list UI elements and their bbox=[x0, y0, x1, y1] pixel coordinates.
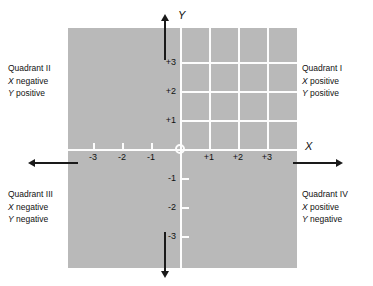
tick-label-x-minus-3: -3 bbox=[84, 152, 102, 162]
x-negative-direction-arrow bbox=[28, 159, 78, 167]
gridline-x-plus-2 bbox=[238, 28, 240, 149]
tick-x-minus-2 bbox=[122, 143, 124, 150]
tick-label-y-minus-1: -1 bbox=[158, 173, 176, 183]
tick-y-minus-1 bbox=[182, 178, 189, 180]
quadrant-1-x-word: positive bbox=[310, 76, 339, 86]
quadrant-1-title: Quadrant I bbox=[302, 62, 342, 75]
quadrant-4-x-variable: X bbox=[302, 202, 308, 212]
gridline-y-plus-2 bbox=[180, 91, 297, 93]
quadrant-3-x-variable: X bbox=[8, 202, 14, 212]
quadrant-2-note: Quadrant II X negative Y positive bbox=[8, 62, 51, 100]
tick-x-minus-3 bbox=[93, 143, 95, 150]
quadrant-4-x-sign: X positive bbox=[302, 201, 348, 214]
y-positive-direction-arrow bbox=[161, 14, 169, 60]
quadrant-4-note: Quadrant IV X positive Y negative bbox=[302, 188, 348, 226]
quadrant-4-y-sign: Y negative bbox=[302, 213, 348, 226]
tick-y-minus-2 bbox=[182, 207, 189, 209]
gridline-y-plus-3 bbox=[180, 62, 297, 64]
tick-label-x-plus-3: +3 bbox=[258, 152, 276, 162]
quadrant-2-x-sign: X negative bbox=[8, 75, 51, 88]
quadrant-4-y-word: negative bbox=[310, 214, 342, 224]
quadrant-3-y-variable: Y bbox=[8, 214, 14, 224]
quadrant-2-x-variable: X bbox=[8, 76, 14, 86]
quadrant-2-x-word: negative bbox=[16, 76, 48, 86]
tick-label-y-minus-2: -2 bbox=[158, 202, 176, 212]
gridline-y-plus-1 bbox=[180, 120, 297, 122]
tick-label-x-plus-1: +1 bbox=[200, 152, 218, 162]
quadrant-1-note: Quadrant I X positive Y positive bbox=[302, 62, 342, 100]
x-axis-label: X bbox=[305, 140, 312, 152]
quadrant-2-y-variable: Y bbox=[8, 88, 14, 98]
origin-marker bbox=[175, 144, 185, 154]
quadrant-3-y-word: negative bbox=[16, 214, 48, 224]
tick-x-minus-1 bbox=[151, 143, 153, 150]
plot-panel bbox=[68, 28, 297, 268]
tick-label-x-plus-2: +2 bbox=[229, 152, 247, 162]
quadrant-2-title: Quadrant II bbox=[8, 62, 51, 75]
gridline-x-plus-1 bbox=[209, 28, 211, 149]
y-negative-direction-arrow bbox=[161, 232, 169, 278]
quadrant-1-y-word: positive bbox=[310, 88, 339, 98]
quadrant-4-x-word: positive bbox=[310, 202, 339, 212]
quadrant-3-x-sign: X negative bbox=[8, 201, 53, 214]
quadrant-4-y-variable: Y bbox=[302, 214, 308, 224]
coordinate-plane-figure: +3 +2 +1 -1 -2 -3 -3 -2 -1 +1 +2 +3 X Y … bbox=[0, 0, 373, 286]
quadrant-3-x-word: negative bbox=[16, 202, 48, 212]
tick-y-minus-3 bbox=[182, 236, 189, 238]
quadrant-3-note: Quadrant III X negative Y negative bbox=[8, 188, 53, 226]
tick-label-x-minus-2: -2 bbox=[113, 152, 131, 162]
tick-label-x-minus-1: -1 bbox=[142, 152, 160, 162]
tick-label-y-plus-2: +2 bbox=[158, 86, 176, 96]
quadrant-3-title: Quadrant III bbox=[8, 188, 53, 201]
quadrant-1-x-variable: X bbox=[302, 76, 308, 86]
quadrant-4-title: Quadrant IV bbox=[302, 188, 348, 201]
quadrant-2-y-sign: Y positive bbox=[8, 87, 51, 100]
quadrant-1-y-variable: Y bbox=[302, 88, 308, 98]
quadrant-3-y-sign: Y negative bbox=[8, 213, 53, 226]
y-axis-label: Y bbox=[178, 9, 185, 21]
gridline-x-plus-3 bbox=[267, 28, 269, 149]
quadrant-1-y-sign: Y positive bbox=[302, 87, 342, 100]
tick-label-y-plus-1: +1 bbox=[158, 115, 176, 125]
x-positive-direction-arrow bbox=[293, 159, 343, 167]
quadrant-1-x-sign: X positive bbox=[302, 75, 342, 88]
quadrant-2-y-word: positive bbox=[16, 88, 45, 98]
